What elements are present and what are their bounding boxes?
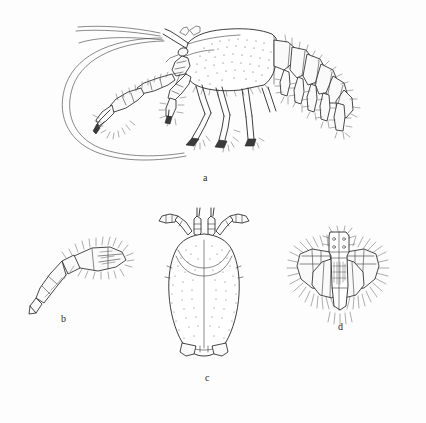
carapace-lateral — [184, 29, 277, 91]
figure-label-a: a — [203, 173, 207, 183]
figure-label-d: d — [338, 322, 343, 332]
plate-canvas — [0, 0, 426, 423]
figure-label-c: c — [205, 373, 209, 383]
illustration-plate: a b c d — [0, 0, 426, 423]
figure-label-b: b — [61, 314, 66, 324]
